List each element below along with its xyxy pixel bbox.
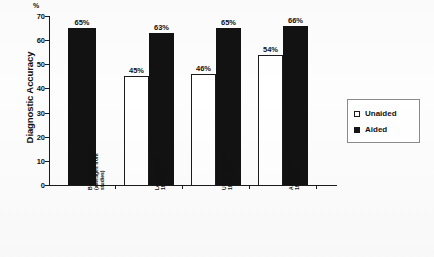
y-axis-unit-label: % xyxy=(33,2,39,9)
plot-area: 0 10 20 30 40 50 60 70 65% 45% 63% 46% 6… xyxy=(49,16,329,185)
x-axis-category-text: Leeds Studies 1970's (2) xyxy=(154,116,166,190)
chart-legend: Unaided Aided xyxy=(347,99,420,143)
x-axis-category-text: Bayesian Analysis (averages from studies… xyxy=(87,116,105,190)
y-axis-title: Diagnostic Accuracy xyxy=(24,28,35,168)
y-axis-tick xyxy=(45,64,49,65)
y-axis-tick-label: 20 xyxy=(37,132,45,141)
x-axis-tick xyxy=(115,185,116,189)
legend-label-unaided: Unaided xyxy=(365,109,397,118)
y-axis-tick-label: 30 xyxy=(37,108,45,117)
bar-unaided-uk-national-trial: 46% xyxy=(191,74,216,185)
y-axis-tick-label: 10 xyxy=(37,156,45,165)
y-axis-tick-label: 70 xyxy=(37,12,45,21)
bar-value-label: 54% xyxy=(263,45,278,54)
y-axis-tick xyxy=(45,16,49,17)
x-axis-category-text: UK National Trial 1980's (1) xyxy=(221,116,233,190)
x-axis-tick xyxy=(249,185,250,189)
bar-unaided-leeds: 45% xyxy=(124,76,149,185)
bar-value-label: 66% xyxy=(288,16,303,25)
legend-item-unaided: Unaided xyxy=(354,109,414,118)
bar-value-label: 63% xyxy=(154,23,169,32)
y-axis-tick xyxy=(45,113,49,114)
bar-value-label: 46% xyxy=(196,64,211,73)
bar-chart: % Diagnostic Accuracy 0 10 20 30 40 50 6… xyxy=(0,0,434,257)
y-axis-line xyxy=(49,16,50,185)
y-axis-tick xyxy=(45,88,49,89)
legend-item-aided: Aided xyxy=(354,125,414,134)
y-axis-tick xyxy=(45,161,49,162)
legend-label-aided: Aided xyxy=(365,125,387,134)
x-axis-category-text: Airedale TGH 1990's (6) xyxy=(288,116,300,190)
y-axis-tick xyxy=(45,185,49,186)
y-axis-tick xyxy=(45,40,49,41)
legend-swatch-unaided-icon xyxy=(354,111,360,117)
bar-value-label: 45% xyxy=(129,66,144,75)
y-axis-tick-label: 50 xyxy=(37,60,45,69)
bar-value-label: 65% xyxy=(74,18,89,27)
x-axis-tick xyxy=(316,185,317,189)
y-axis-tick-label: 0 xyxy=(41,181,45,190)
legend-swatch-aided-icon xyxy=(354,127,360,133)
y-axis-tick-label: 60 xyxy=(37,36,45,45)
y-axis-tick xyxy=(45,137,49,138)
bar-unaided-airedale: 54% xyxy=(258,55,283,185)
x-axis-tick xyxy=(182,185,183,189)
y-axis-tick-label: 40 xyxy=(37,84,45,93)
bar-value-label: 65% xyxy=(221,18,236,27)
